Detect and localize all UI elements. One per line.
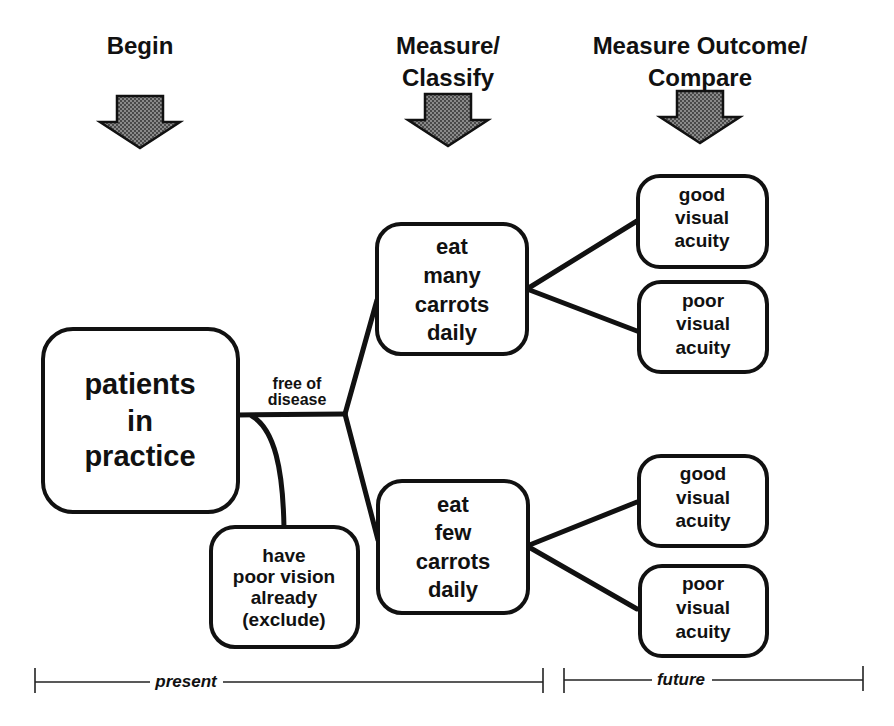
svg-text:visual: visual — [676, 313, 730, 334]
svg-text:poor: poor — [682, 290, 725, 311]
svg-text:carrots: carrots — [415, 292, 490, 317]
svg-text:poor vision: poor vision — [233, 566, 335, 587]
svg-text:disease: disease — [268, 391, 327, 408]
svg-text:daily: daily — [428, 577, 479, 602]
svg-text:good: good — [679, 184, 725, 205]
svg-text:visual: visual — [675, 207, 729, 228]
cohort-study-diagram: Begin Measure/ Classify Measure Outcome/… — [0, 0, 894, 726]
svg-text:free of: free of — [273, 375, 323, 392]
node-few-poor-visual-acuity: poor visual acuity — [640, 566, 767, 656]
svg-text:eat: eat — [436, 234, 468, 259]
svg-text:few: few — [435, 520, 473, 545]
edge-to-exclude — [252, 416, 284, 528]
stage-header-begin: Begin — [107, 32, 174, 59]
node-eat-many-carrots: eat many carrots daily — [377, 224, 527, 354]
svg-text:acuity: acuity — [676, 337, 731, 358]
svg-text:(exclude): (exclude) — [242, 609, 325, 630]
node-patients-in-practice: patients in practice — [43, 329, 238, 512]
edge-few-poor — [527, 546, 637, 609]
stage-label-line1: Measure Outcome/ — [593, 32, 808, 59]
stage-label: Begin — [107, 32, 174, 59]
down-arrow-icon — [100, 96, 180, 148]
down-arrow-icon — [660, 91, 740, 143]
svg-text:acuity: acuity — [676, 621, 731, 642]
svg-text:acuity: acuity — [675, 230, 730, 251]
node-exclude-poor-vision: have poor vision already (exclude) — [211, 527, 358, 647]
svg-text:practice: practice — [84, 440, 195, 472]
stage-label-line2: Classify — [402, 64, 495, 91]
svg-text:daily: daily — [427, 320, 478, 345]
timeline-present-label: present — [154, 672, 218, 691]
svg-text:poor: poor — [682, 573, 725, 594]
svg-text:carrots: carrots — [416, 549, 491, 574]
stage-header-measure-classify: Measure/ Classify — [396, 32, 500, 91]
svg-text:patients: patients — [84, 368, 195, 400]
stage-header-measure-outcome: Measure Outcome/ Compare — [593, 32, 808, 91]
svg-text:many: many — [423, 263, 481, 288]
svg-text:eat: eat — [437, 492, 469, 517]
svg-text:already: already — [251, 587, 318, 608]
edge-label-free-of-disease: free of disease — [268, 375, 327, 408]
svg-text:visual: visual — [676, 597, 730, 618]
timeline-present: present — [35, 668, 543, 693]
timeline-future: future — [564, 666, 863, 693]
edge-many-poor — [527, 289, 637, 331]
svg-text:visual: visual — [676, 487, 730, 508]
node-few-good-visual-acuity: good visual acuity — [639, 456, 767, 546]
edge-few-good — [527, 502, 637, 546]
node-many-good-visual-acuity: good visual acuity — [638, 176, 767, 267]
edge-to-many-carrots — [345, 300, 377, 414]
down-arrow-icon — [408, 94, 488, 146]
svg-text:good: good — [680, 463, 726, 484]
edge-many-good — [527, 221, 637, 289]
timeline-future-label: future — [657, 670, 705, 689]
stage-label-line1: Measure/ — [396, 32, 500, 59]
node-many-poor-visual-acuity: poor visual acuity — [639, 282, 767, 372]
svg-text:acuity: acuity — [676, 510, 731, 531]
node-eat-few-carrots: eat few carrots daily — [378, 481, 528, 613]
svg-text:in: in — [127, 405, 153, 437]
svg-text:have: have — [262, 545, 305, 566]
stage-label-line2: Compare — [648, 64, 752, 91]
edge-to-few-carrots — [345, 414, 378, 540]
